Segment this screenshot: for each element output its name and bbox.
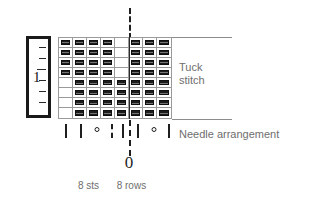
stitch-cell-empty xyxy=(59,78,73,88)
stitch-cell-tuck xyxy=(143,58,157,68)
stitch-cell-tuck xyxy=(157,78,171,88)
stitch-cell-tuck xyxy=(129,88,143,98)
stitch-cell-tuck xyxy=(157,68,171,78)
stitch-cell-tuck xyxy=(129,48,143,58)
ruler-tick xyxy=(39,91,46,92)
stitch-cell-empty xyxy=(59,108,73,118)
tuck-stitch-legend-line1: Tuck xyxy=(179,61,205,74)
stitch-cell-tuck xyxy=(101,98,115,108)
stitch-cell-tuck xyxy=(157,38,171,48)
stitch-cell-tuck xyxy=(73,38,87,48)
stitch-cell-tuck xyxy=(157,98,171,108)
needle-symbol-circle xyxy=(151,124,156,132)
stitch-cell-tuck xyxy=(143,78,157,88)
ruler-tick xyxy=(39,102,46,103)
stitch-cell-empty xyxy=(115,48,129,58)
needle-symbol-bar xyxy=(168,124,170,138)
stitch-cell-empty xyxy=(115,68,129,78)
stitch-cell-tuck xyxy=(157,108,171,118)
stitch-cell-tuck xyxy=(73,108,87,118)
stitch-row-counts: 8 sts 8 rows xyxy=(78,180,146,191)
stitch-cell-tuck xyxy=(115,108,129,118)
stitch-cell-tuck xyxy=(143,48,157,58)
stitch-cell-tuck xyxy=(129,98,143,108)
stitch-cell-empty xyxy=(59,88,73,98)
needle-symbol-bar xyxy=(122,124,124,138)
stitch-cell-tuck xyxy=(101,38,115,48)
stitch-cell-tuck xyxy=(87,58,101,68)
stitch-cell-tuck xyxy=(87,88,101,98)
ruler-tick xyxy=(39,58,46,59)
stitch-cell-tuck xyxy=(73,68,87,78)
needle-arrangement-legend: Needle arrangement xyxy=(179,128,279,141)
stitch-cell-tuck xyxy=(59,58,73,68)
stitch-cell-tuck xyxy=(73,98,87,108)
tuck-stitch-legend: Tuck stitch xyxy=(179,61,205,87)
stitch-cell-tuck xyxy=(59,68,73,78)
needle-symbol-dashed xyxy=(111,124,113,138)
stitch-cell-tuck xyxy=(143,88,157,98)
stitch-cell-tuck xyxy=(73,48,87,58)
stitch-cell-tuck xyxy=(101,58,115,68)
stitch-cell-empty xyxy=(115,58,129,68)
stitch-cell-tuck xyxy=(59,38,73,48)
needle-symbol-circle xyxy=(94,124,99,132)
needle-symbol-bar xyxy=(80,124,82,138)
stitch-cell-tuck xyxy=(101,78,115,88)
stitch-cell-tuck xyxy=(115,88,129,98)
stitch-cell-tuck xyxy=(101,68,115,78)
stitch-cell-tuck xyxy=(157,88,171,98)
stitch-grid xyxy=(58,37,172,119)
stitch-cell-tuck xyxy=(73,88,87,98)
stitch-cell-tuck xyxy=(87,48,101,58)
stitch-cell-tuck xyxy=(115,78,129,88)
leader-line-tuck-top xyxy=(172,37,232,38)
ruler-tick xyxy=(39,47,46,48)
needle-symbol-bar xyxy=(65,124,67,138)
stitch-cell-tuck xyxy=(129,68,143,78)
centre-line-dash-top xyxy=(129,8,131,39)
stitch-cell-tuck xyxy=(87,78,101,88)
ruler-label: 1 xyxy=(33,70,41,85)
gauge-ruler: 1 xyxy=(26,36,51,118)
centre-line-dash-bottom xyxy=(129,120,131,156)
leader-line-tuck-bottom xyxy=(172,119,232,120)
needle-symbol-bar xyxy=(137,124,139,138)
stitch-cell-tuck xyxy=(87,108,101,118)
stitch-cell-tuck xyxy=(87,38,101,48)
stitch-cell-tuck xyxy=(101,108,115,118)
tuck-stitch-legend-line2: stitch xyxy=(179,74,205,87)
zero-origin-label: 0 xyxy=(125,154,134,171)
stitch-cell-tuck xyxy=(115,98,129,108)
stitch-cell-tuck xyxy=(73,78,87,88)
stitch-cell-tuck xyxy=(73,58,87,68)
stitch-cell-empty xyxy=(59,98,73,108)
stitch-cell-tuck xyxy=(101,88,115,98)
stitch-cell-tuck xyxy=(101,48,115,58)
stitch-cell-tuck xyxy=(157,58,171,68)
stitch-cell-tuck xyxy=(87,68,101,78)
stitch-cell-tuck xyxy=(59,48,73,58)
stitch-count-label: 8 sts xyxy=(78,180,99,191)
stitch-cell-tuck xyxy=(87,98,101,108)
stitch-cell-tuck xyxy=(143,38,157,48)
stitch-cell-tuck xyxy=(129,58,143,68)
stitch-cell-tuck xyxy=(157,48,171,58)
stitch-cell-tuck xyxy=(129,108,143,118)
stitch-cell-tuck xyxy=(143,98,157,108)
stitch-cell-tuck xyxy=(129,78,143,88)
stitch-cell-tuck xyxy=(129,38,143,48)
stitch-cell-tuck xyxy=(143,108,157,118)
stitch-cell-empty xyxy=(115,38,129,48)
stitch-cell-tuck xyxy=(143,68,157,78)
stitch-chart xyxy=(58,37,172,119)
row-count-label: 8 rows xyxy=(117,180,146,191)
needle-arrangement-row xyxy=(58,124,172,142)
